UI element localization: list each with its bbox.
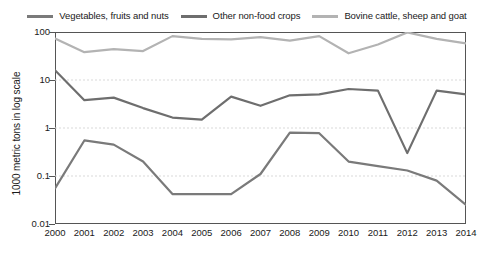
- y-axis-ticks: 1001010.10.01: [14, 0, 50, 254]
- y-tick-label: 100: [16, 27, 50, 37]
- y-tick-mark: [49, 32, 55, 33]
- series-line: [55, 70, 466, 153]
- y-tick-mark: [49, 224, 55, 225]
- legend-label: Vegetables, fruits and nuts: [59, 11, 168, 21]
- legend-label: Bovine cattle, sheep and goat: [344, 11, 466, 21]
- x-tick-label: 2014: [446, 228, 486, 238]
- chart-container: Vegetables, fruits and nuts Other non-fo…: [0, 0, 494, 254]
- y-tick-label: 10: [16, 75, 50, 85]
- legend-label: Other non-food crops: [213, 11, 301, 21]
- y-tick-mark: [49, 80, 55, 81]
- legend-item-other-non-food-crops[interactable]: Other non-food crops: [181, 11, 301, 21]
- y-tick-mark: [49, 176, 55, 177]
- x-axis-ticks: 2000200120022003200420052006200720082009…: [55, 228, 466, 250]
- y-tick-mark: [49, 128, 55, 129]
- legend-line-swatch-icon: [181, 15, 207, 18]
- legend-line-swatch-icon: [312, 15, 338, 18]
- series-line: [55, 133, 466, 205]
- y-tick-label: 1: [16, 123, 50, 133]
- chart-legend: Vegetables, fruits and nuts Other non-fo…: [0, 6, 494, 26]
- plot-area: [55, 32, 466, 224]
- plot-svg: [55, 32, 466, 224]
- series-line: [55, 32, 466, 53]
- y-tick-label: 0.1: [16, 171, 50, 181]
- legend-item-bovine-cattle-sheep-and-goat[interactable]: Bovine cattle, sheep and goat: [312, 11, 466, 21]
